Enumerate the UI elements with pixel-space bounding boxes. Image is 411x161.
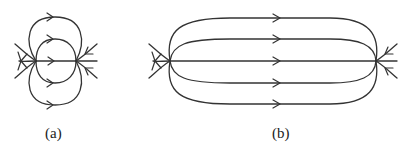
curve-a-inner-bottom — [36, 61, 76, 83]
caption-a: (a) — [45, 125, 62, 142]
whisker-b-right-up — [376, 44, 397, 61]
diagram-a — [15, 13, 97, 109]
diagram-b — [149, 14, 397, 108]
curve-a-inner-top — [36, 39, 76, 61]
curve-b-2 — [170, 39, 376, 61]
whisker-b-right-down — [376, 61, 397, 78]
curve-b-4 — [170, 61, 376, 83]
caption-b: (b) — [272, 125, 290, 142]
